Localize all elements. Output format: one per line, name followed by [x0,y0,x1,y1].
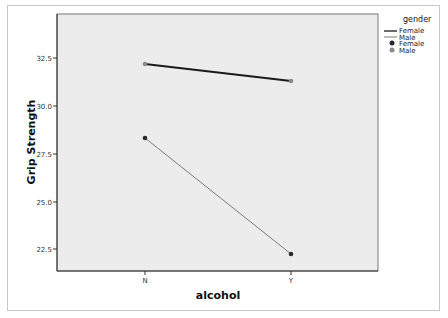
y-tick-label: 27.5 [36,151,52,159]
x-tick-label: N [142,277,147,285]
y-tick-label: 25.0 [36,199,52,207]
plot-area [57,14,378,271]
x-tick-label: Y [288,277,294,285]
y-tick-label: 30.0 [36,103,52,111]
data-point [289,252,294,257]
legend-marker-swatch [390,48,395,53]
x-axis-ticks: N Y [142,271,293,285]
legend: gender Female Male Female Male [384,15,432,55]
y-axis-title: Grip Strength [25,100,38,185]
x-axis-title: alcohol [196,289,240,302]
data-point [143,62,148,67]
legend-label: Male [399,47,416,55]
legend-title: gender [403,15,432,24]
y-tick-label: 22.5 [36,246,52,254]
y-tick-label: 32.5 [36,55,52,63]
data-point [289,79,294,84]
chart-svg: 22.5 25.0 27.5 30.0 32.5 N Y alcohol Gri… [0,0,448,318]
y-axis-ticks: 22.5 25.0 27.5 30.0 32.5 [36,55,57,254]
data-point [143,136,148,141]
legend-marker-swatch [390,41,395,46]
